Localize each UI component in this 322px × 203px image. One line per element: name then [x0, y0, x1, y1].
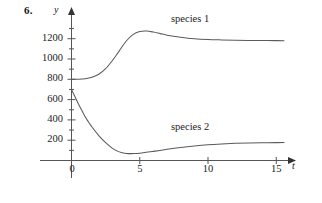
y-tick-label: 600 — [29, 93, 63, 104]
y-tick-label: 800 — [29, 72, 63, 83]
x-tick-label: 10 — [198, 163, 218, 174]
y-tick-label: 200 — [29, 133, 63, 144]
exercise-number: 6. — [24, 4, 33, 16]
y-tick-label: 400 — [29, 113, 63, 124]
curve-species-1 — [72, 31, 285, 79]
y-axis-label: y — [54, 4, 58, 15]
x-tick-label: 15 — [266, 163, 286, 174]
y-axis-arrow-icon — [68, 7, 75, 15]
curve-label-species-1: species 1 — [171, 13, 209, 24]
x-tick-label: 5 — [130, 163, 150, 174]
y-tick-label: 1200 — [29, 32, 63, 43]
x-axis-label: t — [292, 160, 295, 171]
curve-label-species-2: species 2 — [171, 121, 209, 132]
y-tick-label: 1000 — [29, 52, 63, 63]
figure-container: 6. y t species 1 species 2 2004006008001… — [0, 0, 322, 203]
origin-label: 0 — [62, 163, 82, 174]
